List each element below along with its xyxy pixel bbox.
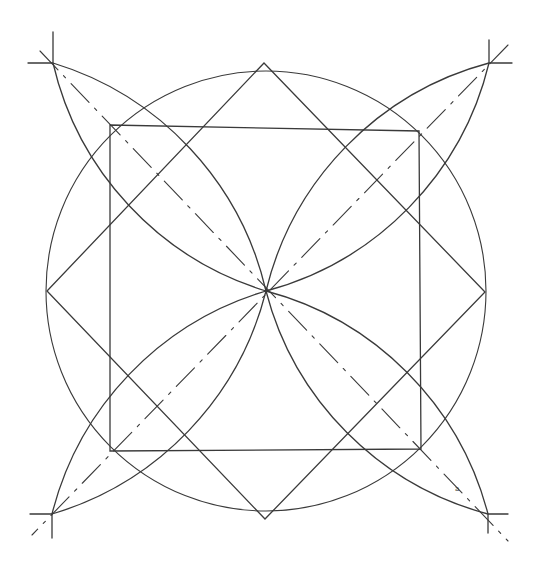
arc-top-left-b (53, 32, 266, 291)
arc-top-right-b (266, 40, 489, 291)
diagram-svg: a (0, 0, 535, 572)
arc-bottom-right-b (266, 291, 488, 533)
arc-bottom-left (30, 291, 266, 514)
annotation-mark: a (455, 485, 459, 493)
geometric-construction-diagram: a (0, 0, 535, 572)
arc-top-left (28, 63, 266, 291)
